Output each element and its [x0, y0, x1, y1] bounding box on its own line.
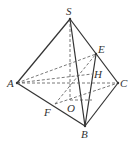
label-H: H: [93, 68, 103, 80]
point-S: [69, 18, 71, 20]
label-S: S: [66, 5, 72, 17]
edge-FC: [55, 83, 118, 104]
tetrahedron-diagram: S E H C A O F B: [0, 0, 134, 141]
label-A: A: [6, 77, 14, 89]
edge-SA: [17, 19, 70, 83]
point-E: [95, 53, 97, 55]
label-F: F: [43, 106, 51, 118]
label-O: O: [67, 102, 75, 114]
point-A: [16, 82, 18, 84]
label-E: E: [97, 43, 105, 55]
point-C: [117, 82, 119, 84]
label-C: C: [120, 77, 128, 89]
point-B: [84, 125, 86, 127]
label-B: B: [81, 128, 88, 140]
edge-BC: [85, 83, 118, 126]
